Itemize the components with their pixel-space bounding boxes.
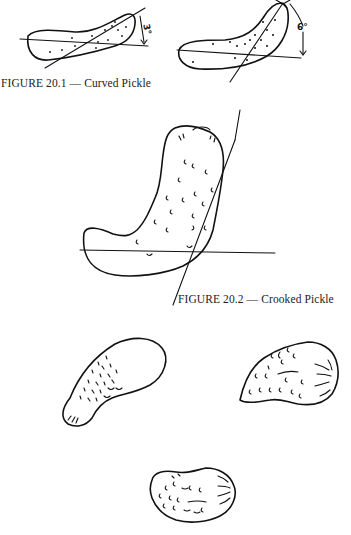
wrinkled-pickle-icon: [220, 330, 350, 430]
pickle-sketch-bottom-center: [130, 440, 250, 535]
round-pickle-icon: [130, 440, 250, 535]
angle-label-3: 3°: [141, 23, 153, 35]
figure-20-1-caption: FIGURE 20.1 — Curved Pickle: [1, 77, 151, 89]
figure-20-1-right-drawing: 6°: [175, 0, 351, 85]
curved-pickle-left-icon: 3°: [0, 0, 175, 75]
figure-20-2-caption: FIGURE 20.2 — Crooked Pickle: [178, 293, 334, 305]
stubby-pickle-icon: [40, 330, 170, 440]
curved-pickle-right-icon: 6°: [175, 0, 351, 85]
pickle-sketch-bottom-right: [220, 330, 350, 430]
figure-20-1-left-drawing: 3°: [0, 0, 175, 75]
figure-20-2-drawing: [75, 110, 285, 310]
pickle-sketch-bottom-left: [40, 330, 170, 440]
crooked-pickle-icon: [75, 110, 285, 310]
angle-label-6: 6°: [297, 22, 308, 32]
